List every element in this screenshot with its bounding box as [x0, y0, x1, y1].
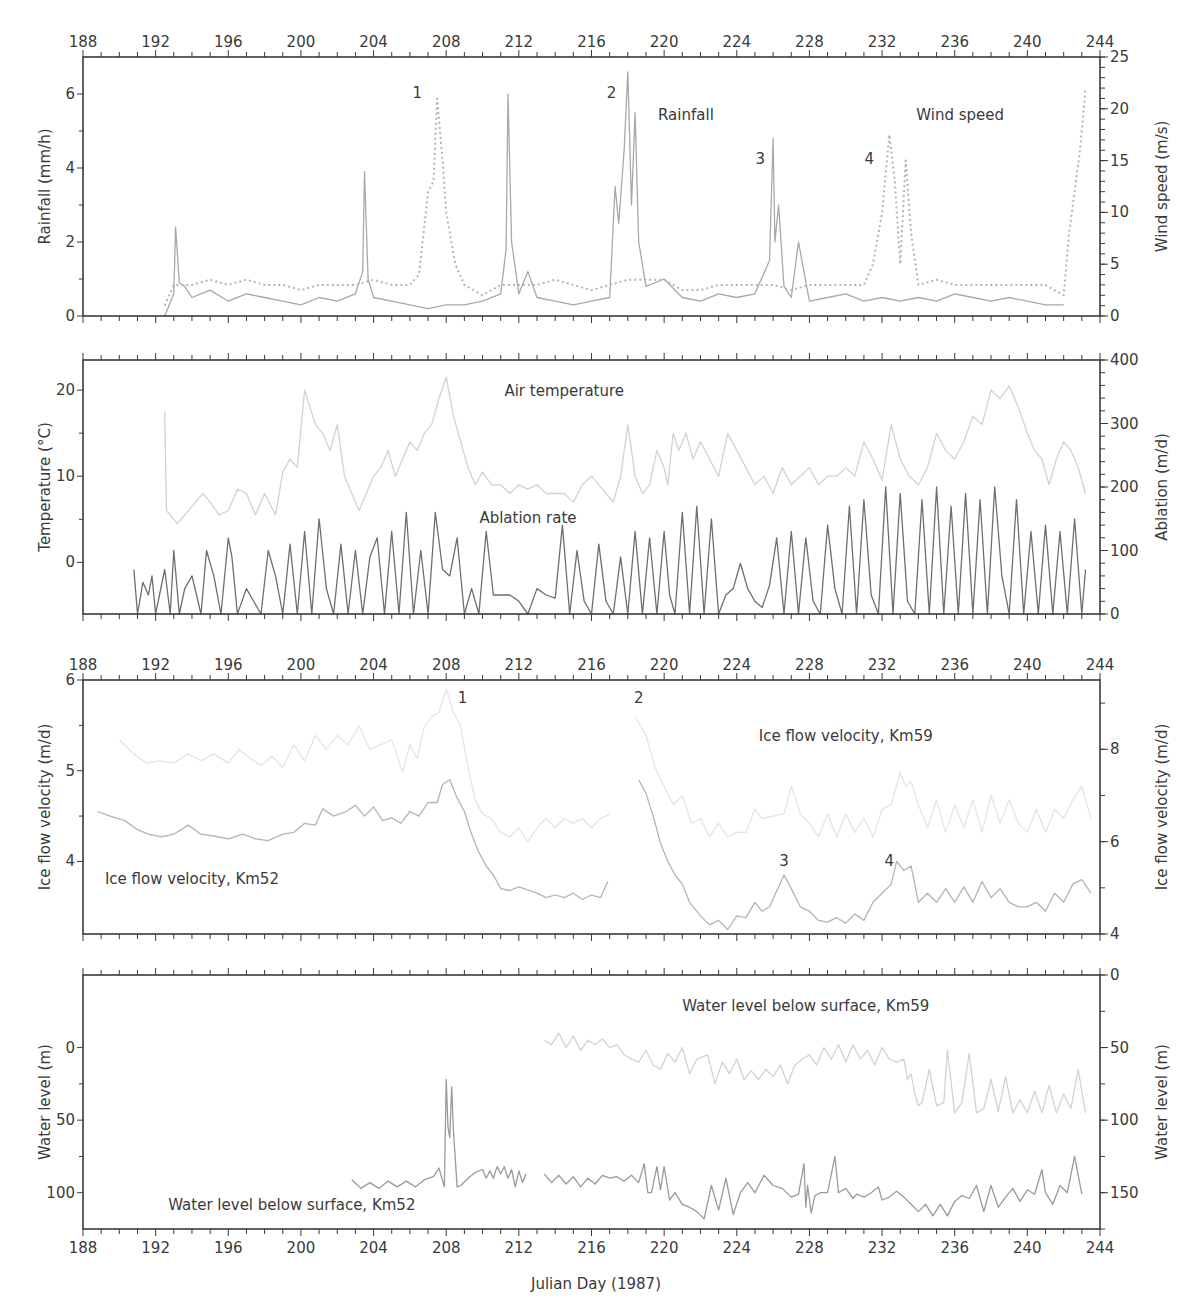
annotation-label: 1 [412, 84, 422, 102]
annotation-label: Ice flow velocity, Km52 [105, 870, 279, 888]
y-tick-label: 0 [65, 307, 75, 325]
y2-tick-label: 400 [1110, 351, 1139, 369]
y2-tick-label: 10 [1110, 203, 1129, 221]
x-tick-label: 196 [214, 33, 243, 51]
x-tick-label: 196 [214, 1239, 243, 1257]
x-tick-label: 240 [1013, 33, 1042, 51]
y-axis-title: Rainfall (mm/h) [36, 128, 54, 244]
y-tick-label: 100 [46, 1184, 75, 1202]
series-line-water-level-below-surface-km52-cont- [544, 1156, 1082, 1218]
x-tick-label: 192 [141, 33, 170, 51]
series-group [98, 689, 1091, 929]
x-tick-label: 232 [868, 1239, 897, 1257]
y-axis-title: Water level (m) [36, 1044, 54, 1160]
x-tick-label: 200 [287, 1239, 316, 1257]
x-tick-label: 220 [650, 1239, 679, 1257]
y-tick-label: 5 [65, 762, 75, 780]
panel-temperature-ablation: 010200100200300400Temperature (°C)Ablati… [36, 351, 1171, 623]
y2-tick-label: 25 [1110, 48, 1129, 66]
x-tick-label: 188 [69, 33, 98, 51]
series-line-ice-flow-velocity-km52-cont- [639, 780, 1091, 930]
y-tick-label: 0 [65, 553, 75, 571]
y-tick-label: 4 [65, 159, 75, 177]
y2-tick-label: 50 [1110, 1039, 1129, 1057]
annotation-label: 3 [756, 150, 766, 168]
series-group [134, 377, 1086, 614]
y2-tick-label: 8 [1110, 740, 1120, 758]
annotation-label: 2 [607, 84, 617, 102]
x-tick-label: 228 [795, 656, 824, 674]
annotation-label: 3 [779, 852, 789, 870]
y2-tick-label: 200 [1110, 478, 1139, 496]
x-tick-label: 204 [359, 33, 388, 51]
x-tick-label: 224 [722, 1239, 751, 1257]
x-tick-label: 240 [1013, 1239, 1042, 1257]
x-tick-label: 236 [940, 33, 969, 51]
x-tick-label: 224 [722, 656, 751, 674]
y2-tick-label: 100 [1110, 542, 1139, 560]
series-line-water-level-below-surface-km52 [352, 1080, 526, 1189]
y-tick-label: 4 [65, 852, 75, 870]
x-tick-label: 200 [287, 656, 316, 674]
y2-tick-label: 4 [1110, 925, 1120, 943]
y-tick-label: 50 [56, 1111, 75, 1129]
y2-axis-title: Wind speed (m/s) [1153, 121, 1171, 253]
x-tick-label: 232 [868, 33, 897, 51]
x-tick-label: 240 [1013, 656, 1042, 674]
x-tick-label: 208 [432, 656, 461, 674]
plot-frame [83, 680, 1100, 934]
panel-water-level: 1881921962002042082122162202242282322362… [36, 966, 1171, 1257]
y2-tick-label: 6 [1110, 833, 1120, 851]
series-group [352, 1033, 1086, 1219]
x-tick-label: 192 [141, 1239, 170, 1257]
y-tick-label: 6 [65, 85, 75, 103]
x-tick-label: 216 [577, 1239, 606, 1257]
x-tick-label: 244 [1086, 1239, 1115, 1257]
annotation-label: Water level below surface, Km52 [168, 1196, 415, 1214]
x-tick-label: 216 [577, 656, 606, 674]
x-tick-label: 216 [577, 33, 606, 51]
x-tick-label: 212 [505, 1239, 534, 1257]
y2-tick-label: 100 [1110, 1111, 1139, 1129]
annotation-label: Air temperature [504, 382, 624, 400]
x-tick-label: 188 [69, 1239, 98, 1257]
plot-frame [83, 57, 1100, 316]
y2-tick-label: 300 [1110, 415, 1139, 433]
y2-axis-title: Ablation (m/d) [1153, 433, 1171, 541]
x-tick-label: 224 [722, 33, 751, 51]
annotation-label: 4 [885, 852, 895, 870]
x-tick-label: 228 [795, 1239, 824, 1257]
x-axis-title: Julian Day (1987) [530, 1275, 661, 1293]
x-tick-label: 208 [432, 1239, 461, 1257]
y2-tick-label: 15 [1110, 152, 1129, 170]
x-tick-label: 236 [940, 656, 969, 674]
y2-tick-label: 0 [1110, 307, 1120, 325]
series-line-water-level-below-surface-km59 [544, 1033, 1085, 1113]
x-tick-label: 220 [650, 33, 679, 51]
x-tick-label: 196 [214, 656, 243, 674]
y-tick-label: 6 [65, 671, 75, 689]
y-tick-label: 20 [56, 381, 75, 399]
y-tick-label: 2 [65, 233, 75, 251]
x-tick-label: 212 [505, 656, 534, 674]
annotation-label: Ice flow velocity, Km59 [759, 727, 933, 745]
x-tick-label: 228 [795, 33, 824, 51]
y-tick-label: 10 [56, 467, 75, 485]
y2-tick-label: 150 [1110, 1184, 1139, 1202]
y2-axis-title: Ice flow velocity (m/d) [1153, 724, 1171, 891]
y2-tick-label: 0 [1110, 605, 1120, 623]
x-tick-label: 200 [287, 33, 316, 51]
panel-rainfall-wind: 1881921962002042082122162202242282322362… [36, 33, 1171, 325]
panel-ice-flow-velocity: 1881921962002042082122162202242282322362… [36, 656, 1171, 943]
y2-tick-label: 20 [1110, 100, 1129, 118]
y-tick-label: 0 [65, 1039, 75, 1057]
y2-tick-label: 0 [1110, 966, 1120, 984]
annotation-label: 4 [865, 150, 875, 168]
annotation-label: Rainfall [658, 106, 714, 124]
plot-frame [83, 975, 1100, 1229]
y2-tick-label: 5 [1110, 255, 1120, 273]
annotation-label: 1 [458, 689, 468, 707]
x-tick-label: 212 [505, 33, 534, 51]
y2-axis-title: Water level (m) [1153, 1044, 1171, 1160]
x-tick-label: 220 [650, 656, 679, 674]
